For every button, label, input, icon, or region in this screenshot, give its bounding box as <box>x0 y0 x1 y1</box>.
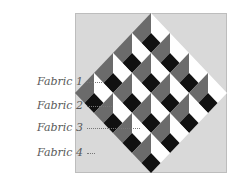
fabric-3-label: Fabric 3 <box>37 122 83 134</box>
fabric-1-label: Fabric 1 <box>37 76 83 88</box>
fabric-4-leader-line <box>87 153 95 154</box>
fabric-4-label: Fabric 4 <box>37 147 83 159</box>
fabric-1-leader-line <box>87 82 102 83</box>
fabric-2-label: Fabric 2 <box>37 100 83 112</box>
tumbling-blocks-diamond <box>0 0 239 183</box>
fabric-2-leader-line <box>87 106 112 107</box>
fabric-3-leader-line <box>87 128 140 129</box>
